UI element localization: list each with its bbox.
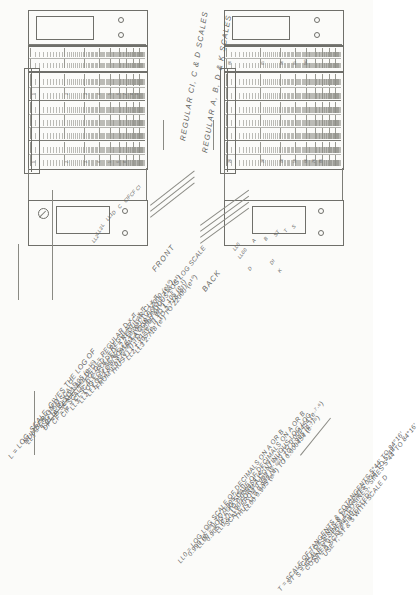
scale-separator xyxy=(29,154,145,155)
tick-mark xyxy=(43,147,44,153)
tick-mark xyxy=(252,160,253,166)
tick-mark xyxy=(81,120,82,126)
front-adjust-screw-icon[interactable] xyxy=(38,208,49,219)
tick-mark xyxy=(83,133,84,139)
tick-row-back-slider xyxy=(225,101,341,140)
tick-mark xyxy=(71,147,72,153)
tick-mark xyxy=(269,79,270,85)
tick-mark xyxy=(67,63,68,68)
tick-mark xyxy=(75,133,76,139)
tick-mark xyxy=(59,147,60,153)
tick-mark xyxy=(279,107,280,113)
tick-mark xyxy=(265,63,266,68)
tick-row-back-upper xyxy=(225,73,341,100)
tick-mark xyxy=(340,120,341,126)
tick-mark xyxy=(260,128,261,139)
tick-mark xyxy=(265,52,266,57)
tick-mark xyxy=(249,120,250,126)
tick-mark xyxy=(73,133,74,139)
tick-mark xyxy=(284,52,285,57)
back-cursor-frame[interactable] xyxy=(220,68,236,174)
tick-mark xyxy=(50,63,51,68)
tick-mark xyxy=(243,79,244,85)
front-frame-left xyxy=(28,168,29,200)
tick-mark xyxy=(56,93,57,99)
tick-mark xyxy=(271,160,272,166)
back-cursor-hairline xyxy=(227,68,228,172)
tick-mark xyxy=(340,79,341,85)
front-upper-bracket-inner xyxy=(36,16,94,40)
tick-mark xyxy=(56,79,57,85)
back-frame-right xyxy=(342,168,343,200)
tick-mark xyxy=(64,115,65,126)
tick-mark xyxy=(64,142,65,153)
tick-mark xyxy=(47,120,48,126)
tick-mark xyxy=(79,160,80,166)
tick-mark xyxy=(282,133,283,139)
back-tick-num-0: 80 xyxy=(228,61,232,65)
tick-mark xyxy=(144,160,145,166)
tick-mark xyxy=(69,93,70,99)
tick-mark xyxy=(239,52,240,57)
tick-mark xyxy=(249,160,250,166)
tick-mark xyxy=(50,107,51,113)
tick-mark xyxy=(284,120,285,126)
tick-mark xyxy=(255,160,256,166)
tick-mark xyxy=(144,147,145,153)
tick-mark xyxy=(277,107,278,113)
tick-mark xyxy=(260,115,261,126)
back-tick-num-1: 85 xyxy=(261,61,265,65)
tick-mark xyxy=(88,52,89,57)
tick-mark xyxy=(249,79,250,85)
tick-mark xyxy=(277,160,278,166)
tick-mark xyxy=(258,79,259,85)
tick-mark xyxy=(231,52,232,57)
tick-mark xyxy=(263,107,264,113)
tick-mark xyxy=(59,52,60,57)
tick-mark xyxy=(84,59,85,68)
tick-mark xyxy=(83,63,84,68)
tick-mark xyxy=(273,133,274,139)
tick-mark xyxy=(77,107,78,113)
tick-mark xyxy=(282,79,283,85)
tick-mark xyxy=(273,120,274,126)
tick-mark xyxy=(69,52,70,57)
tick-mark xyxy=(263,52,264,57)
front-upper-screw-b xyxy=(118,32,124,38)
front-top-stator-scale xyxy=(29,47,145,69)
tick-mark xyxy=(144,63,145,68)
tick-row-back-lower xyxy=(225,141,341,167)
tick-mark xyxy=(279,93,280,99)
tick-mark xyxy=(275,120,276,126)
tick-mark xyxy=(43,120,44,126)
tick-mark xyxy=(275,79,276,85)
tick-mark xyxy=(53,120,54,126)
tick-mark xyxy=(62,120,63,126)
tick-mark xyxy=(277,52,278,57)
tick-mark xyxy=(252,107,253,113)
back-lower-tick-num-1: 30 xyxy=(261,159,265,163)
tick-mark xyxy=(71,52,72,57)
tick-mark xyxy=(43,133,44,139)
tick-mark xyxy=(79,52,80,57)
tick-mark xyxy=(273,93,274,99)
tick-mark xyxy=(273,107,274,113)
front-cursor-frame[interactable] xyxy=(24,68,40,174)
tick-mark xyxy=(53,133,54,139)
tick-mark xyxy=(71,63,72,68)
tick-mark xyxy=(246,160,247,166)
tick-mark xyxy=(30,48,31,57)
tick-mark xyxy=(84,102,85,113)
tick-mark xyxy=(277,93,278,99)
tick-mark xyxy=(275,93,276,99)
front-lower-screw-b xyxy=(122,230,128,236)
tick-mark xyxy=(47,133,48,139)
front-upper-bracket-edge xyxy=(28,44,146,45)
tick-mark xyxy=(62,107,63,113)
tick-mark xyxy=(79,79,80,85)
tick-mark xyxy=(275,63,276,68)
tick-mark xyxy=(263,147,264,153)
back-upper-bracket-edge xyxy=(224,44,342,45)
tick-mark xyxy=(280,142,281,153)
tick-mark xyxy=(79,120,80,126)
